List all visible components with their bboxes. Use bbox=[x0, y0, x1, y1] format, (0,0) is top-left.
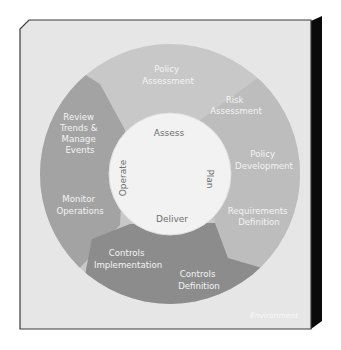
step-review-trends-manage-events: Review Trends & Manage Events bbox=[59, 112, 100, 155]
security-lifecycle-diagram: Policy Assessment Risk Assessment Policy… bbox=[0, 0, 341, 350]
frame-shadow-side bbox=[311, 16, 322, 329]
environment-label: Environment bbox=[250, 311, 299, 320]
phase-assess: Assess bbox=[154, 128, 185, 138]
phase-operate: Operate bbox=[118, 159, 128, 196]
phase-deliver: Deliver bbox=[156, 214, 188, 224]
phase-plan: Plan bbox=[205, 169, 215, 188]
